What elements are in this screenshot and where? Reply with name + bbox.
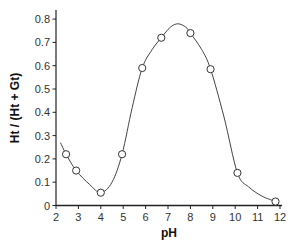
x-tick-label: 9 [210,211,216,223]
x-tick-label: 4 [98,211,104,223]
data-point-marker [272,198,279,205]
curve-path [61,24,276,202]
y-tick-label: 0.2 [35,153,50,165]
y-tick-label: 0.8 [35,13,50,25]
y-tick-label: 0.4 [35,106,50,118]
data-point-marker [62,151,69,158]
y-tick-label: 0.6 [35,60,50,72]
x-tick-label: 7 [165,211,171,223]
y-axis-ticks: 00.10.20.30.40.50.60.70.8 [35,13,56,211]
y-tick-label: 0.7 [35,36,50,48]
x-axis-title: pH [161,226,177,240]
y-tick-label: 0.5 [35,83,50,95]
data-point-marker [187,29,194,36]
x-tick-label: 8 [187,211,193,223]
data-point-marker [234,169,241,176]
x-tick-label: 12 [274,211,286,223]
x-tick-label: 6 [143,211,149,223]
x-tick-label: 10 [229,211,241,223]
data-points [62,29,279,205]
x-axis-ticks: 23456789101112 [53,206,286,223]
data-point-marker [118,151,125,158]
x-tick-label: 2 [53,211,59,223]
data-point-marker [158,34,165,41]
y-tick-label: 0.1 [35,176,50,188]
y-tick-label: 0 [44,200,50,212]
x-tick-label: 5 [120,211,126,223]
data-point-marker [97,189,104,196]
data-point-marker [139,64,146,71]
data-point-marker [73,167,80,174]
line-chart: 23456789101112 00.10.20.30.40.50.60.70.8… [0,0,294,249]
axes [56,10,282,206]
data-point-marker [207,66,214,73]
y-tick-label: 0.3 [35,130,50,142]
x-tick-label: 3 [75,211,81,223]
y-axis-title: Ht / (Ht + Gt) [8,73,22,143]
fitted-curve [61,24,276,202]
chart: 23456789101112 00.10.20.30.40.50.60.70.8… [0,0,294,249]
x-tick-label: 11 [252,211,263,223]
